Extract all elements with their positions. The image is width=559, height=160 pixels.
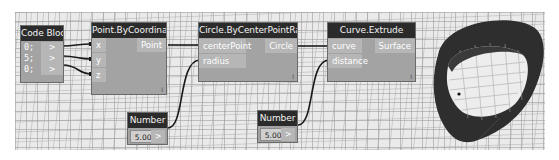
output-port[interactable]: > xyxy=(151,130,165,143)
output-port[interactable]: > xyxy=(41,53,63,64)
number-node[interactable]: Number 5.000 > xyxy=(127,112,168,145)
code-line[interactable]: 5; xyxy=(21,53,34,64)
output-port[interactable]: > xyxy=(41,42,63,53)
input-port-x[interactable]: x xyxy=(92,38,106,52)
lacing-indicator: l xyxy=(161,86,163,93)
lacing-indicator: l xyxy=(410,73,412,80)
node-title: Number xyxy=(128,113,167,128)
code-block-node[interactable]: Code Block 0; > 5; > 0; > xyxy=(20,25,64,83)
number-node[interactable]: Number 5.000 > xyxy=(257,110,298,143)
input-port-distance[interactable]: distance xyxy=(328,54,362,68)
output-port[interactable]: > xyxy=(41,64,63,75)
node-title: Code Block xyxy=(21,26,63,41)
input-port-centerpoint[interactable]: centerPoint xyxy=(199,39,246,53)
input-port-y[interactable]: y xyxy=(92,53,106,67)
output-port[interactable]: > xyxy=(281,128,295,141)
lacing-indicator: l xyxy=(292,73,294,80)
node-title: Number xyxy=(258,111,297,126)
node-title: Curve.Extrude xyxy=(328,23,415,38)
input-port-curve[interactable]: curve xyxy=(328,39,362,53)
curve-extrude-node[interactable]: Curve.Extrude curve distance Surface l xyxy=(327,22,416,82)
node-title: Circle.ByCenterPointRadius xyxy=(199,23,297,38)
output-port-point[interactable]: Point xyxy=(137,38,166,52)
output-port-circle[interactable]: Circle xyxy=(265,39,297,53)
point-by-coordinates-node[interactable]: Point.ByCoordinates x y z Point l xyxy=(91,22,167,95)
code-line[interactable]: 0; xyxy=(21,42,34,53)
node-title: Point.ByCoordinates xyxy=(92,23,166,38)
code-line[interactable]: 0; xyxy=(21,64,34,75)
input-port-z[interactable]: z xyxy=(92,68,106,82)
circle-by-center-point-radius-node[interactable]: Circle.ByCenterPointRadius centerPoint r… xyxy=(198,22,298,82)
input-port-radius[interactable]: radius xyxy=(199,54,246,68)
output-port-surface[interactable]: Surface xyxy=(375,39,415,53)
